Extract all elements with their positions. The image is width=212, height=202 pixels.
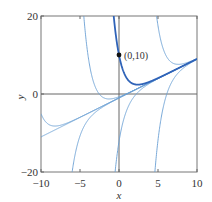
- point-annotation: (0,10): [124, 50, 148, 62]
- point-marker: [117, 53, 122, 58]
- y-tick-label: 20: [27, 10, 39, 22]
- x-tick-label: 0: [116, 177, 122, 189]
- x-tick-label: 5: [155, 177, 161, 189]
- y-tick-label: 0: [33, 88, 39, 100]
- solution-curves-chart: −10−50510−20020 x y (0,10): [0, 0, 212, 202]
- x-tick-label: −10: [32, 177, 50, 189]
- x-tick-label: 10: [192, 177, 204, 189]
- x-tick-label: −5: [74, 177, 86, 189]
- y-tick-label: −20: [21, 166, 39, 178]
- y-axis-label: y: [14, 94, 26, 100]
- x-axis-label: x: [116, 189, 122, 201]
